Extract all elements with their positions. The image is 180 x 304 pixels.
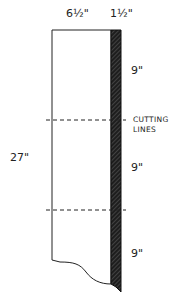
binding-strip [111,30,121,292]
width-label-strip: 1½" [110,7,133,20]
segment-label-1: 9" [131,64,143,77]
segment-label-3: 9" [131,247,143,260]
segment-label-2: 9" [131,161,143,174]
cutting-label-line2: LINES [133,126,156,134]
fabric-panel [52,30,111,284]
height-label: 27" [10,151,29,164]
width-label-main: 6½" [66,7,89,20]
cutting-label-line1: CUTTING [133,116,169,124]
